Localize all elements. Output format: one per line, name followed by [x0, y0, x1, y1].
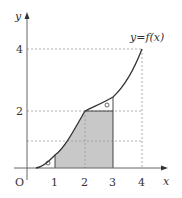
- x-axis-arrow-icon: [161, 166, 168, 171]
- y-axis-label: y: [14, 10, 22, 23]
- y-axis-arrow-icon: [25, 12, 30, 19]
- function-label: y=f(x): [129, 31, 164, 44]
- y-tick-2: 2: [16, 105, 23, 118]
- x-axis-label: x: [163, 175, 170, 188]
- y-tick-4: 4: [16, 43, 23, 56]
- shaded-area: [55, 111, 113, 168]
- function-graph: y x O 4 2 1 2 3 4 y=f(x): [0, 0, 182, 198]
- x-tick-4: 4: [138, 176, 145, 189]
- origin-label: O: [15, 176, 24, 189]
- x-tick-2: 2: [81, 176, 88, 189]
- marker-upper-circle-icon: [105, 103, 109, 107]
- x-tick-3: 3: [109, 176, 116, 189]
- x-tick-1: 1: [51, 176, 58, 189]
